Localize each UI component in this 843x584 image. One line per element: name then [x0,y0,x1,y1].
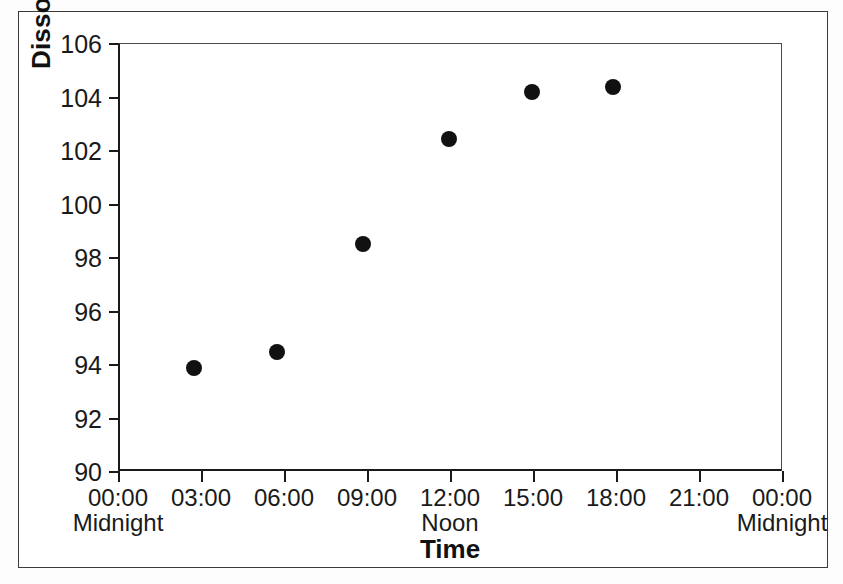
x-tick-mark [782,471,784,482]
y-tick-label: 94 [74,353,102,378]
x-tick-label-time: 03:00 [171,484,231,511]
y-tick-mark: 102 [109,150,118,152]
x-tick-label: 15:00 [503,485,563,510]
y-tick-mark: 92 [109,418,118,420]
chart-figure: Dissolved Oxygen (% saturation) 90929496… [0,0,843,584]
y-tick-label: 98 [74,246,102,271]
x-tick-label: 06:00 [254,485,314,510]
plot-frame [118,43,782,471]
x-tick-label-time: 18:00 [586,484,646,511]
x-tick-label: 09:00 [337,485,397,510]
data-point [441,131,457,147]
plot-area: 9092949698100102104106 00:00Midnight03:0… [118,43,782,471]
x-tick-mark [284,471,286,482]
x-tick-label: 00:00Midnight [737,485,828,535]
y-tick-mark: 106 [109,43,118,45]
data-point [269,344,285,360]
x-axis-title: Time [118,534,782,565]
x-tick-label: 21:00 [669,485,729,510]
y-tick-mark: 100 [109,204,118,206]
x-tick-label-time: 00:00 [88,484,148,511]
y-tick-label: 92 [74,407,102,432]
x-tick-label-time: 00:00 [752,484,812,511]
y-axis-title: Dissolved Oxygen (% saturation) [24,0,58,77]
y-tick-mark: 90 [109,471,118,473]
x-tick-label-time: 06:00 [254,484,314,511]
x-tick-mark [118,471,120,482]
y-tick-mark: 94 [109,364,118,366]
x-tick-label: 12:00Noon [420,485,480,535]
y-tick-label: 104 [60,86,102,111]
y-tick-mark: 96 [109,311,118,313]
x-tick-label-sub: Midnight [73,510,164,535]
x-tick-mark [201,471,203,482]
y-tick-label: 102 [60,139,102,164]
y-tick-mark: 104 [109,97,118,99]
x-tick-label: 00:00Midnight [73,485,164,535]
x-tick-mark [367,471,369,482]
y-tick-label: 96 [74,300,102,325]
x-tick-label-sub: Noon [420,510,480,535]
x-tick-mark [450,471,452,482]
x-tick-label-time: 15:00 [503,484,563,511]
x-tick-label-sub: Midnight [737,510,828,535]
x-tick-mark [533,471,535,482]
x-tick-label: 18:00 [586,485,646,510]
x-tick-label: 03:00 [171,485,231,510]
x-tick-mark [699,471,701,482]
y-tick-mark: 98 [109,257,118,259]
y-tick-label: 106 [60,32,102,57]
x-tick-mark [616,471,618,482]
data-point [355,236,371,252]
x-tick-label-time: 21:00 [669,484,729,511]
y-tick-label: 90 [74,460,102,485]
x-tick-label-time: 12:00 [420,484,480,511]
x-tick-label-time: 09:00 [337,484,397,511]
y-tick-label: 100 [60,193,102,218]
data-point [186,360,202,376]
